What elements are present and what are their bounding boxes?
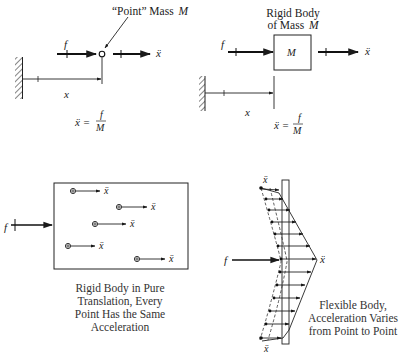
rigid-body-panel: Rigid Body of Mass M f M ẍ x ẍ = f M bbox=[199, 7, 370, 136]
point-mass-equation: ẍ = f M bbox=[74, 109, 106, 133]
mass-point bbox=[279, 271, 282, 274]
accel-label: ẍ bbox=[364, 45, 370, 57]
equation-lhs: ẍ = bbox=[273, 119, 289, 131]
rigid-body-box bbox=[54, 183, 188, 269]
force-label: f bbox=[221, 38, 226, 50]
particle-accel-label: ẍ bbox=[168, 253, 174, 264]
accel-label-bottom: ẍ bbox=[263, 343, 269, 354]
particle-accel-label: ẍ bbox=[103, 185, 109, 196]
caption-line: Acceleration bbox=[91, 321, 150, 333]
equation-denominator: M bbox=[95, 122, 105, 133]
point-mass-title: “Point” Mass M bbox=[112, 5, 190, 17]
equation-lhs: ẍ = bbox=[74, 116, 90, 128]
caption-line: Point Has the Same bbox=[75, 308, 165, 320]
equation-numerator: f bbox=[100, 109, 104, 120]
position-label: x bbox=[244, 106, 250, 118]
flexible-body-caption: Flexible Body, Acceleration Varies from … bbox=[308, 299, 399, 337]
caption-line: from Point to Point bbox=[309, 325, 398, 337]
wall-hatch-icon bbox=[199, 76, 205, 111]
equation-numerator: f bbox=[298, 112, 302, 123]
mass-point bbox=[277, 245, 280, 248]
mass-point bbox=[274, 233, 277, 236]
mass-point bbox=[265, 323, 268, 326]
deformed-shape-left bbox=[260, 188, 281, 340]
equation-denominator: M bbox=[292, 125, 302, 136]
position-label: x bbox=[63, 88, 69, 100]
mass-point bbox=[259, 336, 263, 340]
pointer-arrow bbox=[105, 17, 128, 48]
mass-point bbox=[271, 221, 274, 224]
particle-accel-label: ẍ bbox=[129, 218, 135, 229]
caption-line: Translation, Every bbox=[77, 295, 162, 308]
accel-arrow bbox=[262, 189, 279, 190]
mass-point bbox=[276, 284, 279, 287]
accel-label: ẍ bbox=[155, 47, 161, 59]
mass-point bbox=[265, 198, 268, 201]
point-mass-panel: “Point” Mass M f ẍ x ẍ = f M bbox=[15, 5, 190, 133]
caption-line: Acceleration Varies bbox=[308, 312, 399, 324]
accel-label-mid: ẍ bbox=[319, 253, 325, 265]
box-mass-label: M bbox=[286, 47, 297, 58]
mass-points bbox=[259, 186, 282, 340]
force-label: f bbox=[224, 254, 229, 266]
mass-point bbox=[268, 209, 271, 212]
force-label: f bbox=[64, 38, 69, 50]
point-mass-circle-icon bbox=[99, 51, 105, 57]
caption-line: Rigid Body in Pure bbox=[75, 282, 164, 295]
flexible-body-panel: ẍ ẍ ẍ f Flexible Body, Acceleration Vari… bbox=[224, 174, 399, 354]
pure-translation-panel: f ẍ ẍ ẍ ẍ bbox=[4, 183, 188, 333]
wall-hatch-icon bbox=[15, 57, 22, 99]
rigid-body-equation: ẍ = f M bbox=[273, 112, 303, 136]
pure-translation-caption: Rigid Body in Pure Translation, Every Po… bbox=[75, 282, 165, 333]
mass-point bbox=[273, 297, 276, 300]
particle-accel-label: ẍ bbox=[150, 201, 156, 212]
mass-point bbox=[259, 186, 263, 190]
force-label: f bbox=[4, 221, 9, 233]
rigid-body-title-line2: of Mass M bbox=[267, 19, 320, 31]
dynamics-diagram: “Point” Mass M f ẍ x ẍ = f M Rigid Bo bbox=[0, 0, 400, 358]
mass-point bbox=[269, 310, 272, 313]
caption-line: Flexible Body, bbox=[319, 299, 387, 312]
particle-accel-label: ẍ bbox=[98, 240, 104, 251]
mass-point bbox=[280, 258, 283, 261]
accel-label-top: ẍ bbox=[262, 174, 268, 185]
